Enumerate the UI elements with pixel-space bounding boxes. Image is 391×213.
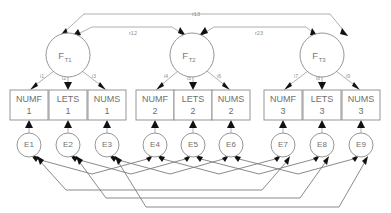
error-corr-line-E1-E7 xyxy=(39,160,288,190)
error-node-E3[interactable]: E3 xyxy=(95,133,119,157)
loading-path-i9[interactable]: i9 xyxy=(336,71,360,90)
arrow-head-E7 xyxy=(279,120,287,128)
loading-path-i6[interactable]: i6 xyxy=(207,71,230,90)
error-label-E4: E4 xyxy=(150,140,160,149)
arrow-head-E2-E8-a xyxy=(76,156,83,165)
indicator-node-NUMS1[interactable]: NUMS 1 xyxy=(88,90,126,120)
error-correlation-E6-E9[interactable] xyxy=(233,155,359,174)
indicator-label-NUMF2: NUMF xyxy=(142,94,168,104)
arrow-head-E1 xyxy=(25,120,33,128)
error-node-E5[interactable]: E5 xyxy=(181,133,205,157)
indicator-node-LETS1[interactable]: LETS 1 xyxy=(49,90,87,120)
arrow-head-E5 xyxy=(189,120,197,128)
arrow-head-E3-E9-b xyxy=(362,156,368,165)
error-node-E8[interactable]: E8 xyxy=(310,133,334,157)
error-label-E1: E1 xyxy=(24,140,34,149)
arrow-head-i4 xyxy=(156,82,164,90)
error-node-E9[interactable]: E9 xyxy=(349,133,373,157)
indicator-label-NUMS2: NUMS xyxy=(218,94,245,104)
indicator-wave-NUMS1: 1 xyxy=(104,106,109,116)
factor-correlation-group: r13 r12 r23 xyxy=(60,11,348,37)
arrow-head-i6 xyxy=(222,82,230,90)
error-node-E1[interactable]: E1 xyxy=(17,133,41,157)
loading-path-i3[interactable]: i3 xyxy=(82,71,106,90)
loading-label-i7: i7 xyxy=(294,73,298,79)
arrow-head-i9 xyxy=(352,82,360,90)
loading-label-i4: i4 xyxy=(164,73,168,79)
correlation-path-r12[interactable]: r12 xyxy=(72,27,186,37)
error-correlation-E5-E8[interactable] xyxy=(195,155,320,174)
error-label-E9: E9 xyxy=(356,140,366,149)
error-correlation-E3-E9[interactable] xyxy=(115,156,368,207)
arrow-head-E1-E7-a xyxy=(37,156,44,165)
error-path-E1 xyxy=(25,120,33,133)
indicator-wave-NUMF2: 2 xyxy=(152,106,157,116)
error-corr-line-E5-E8 xyxy=(197,158,318,174)
factor-node-FT2[interactable]: FT2 xyxy=(170,33,214,77)
indicator-wave-NUMS3: 3 xyxy=(358,106,363,116)
arrow-head-E4 xyxy=(151,120,159,128)
indicator-label-LETS3: LETS xyxy=(311,94,334,104)
loading-path-i4[interactable]: i4 xyxy=(156,71,178,90)
error-node-E7[interactable]: E7 xyxy=(271,133,295,157)
indicator-node-NUMS2[interactable]: NUMS 2 xyxy=(212,90,250,120)
error-node-E6[interactable]: E6 xyxy=(219,133,243,157)
error-correlation-E2-E5[interactable] xyxy=(70,155,191,174)
loading-path-i7[interactable]: i7 xyxy=(284,71,308,90)
indicator-wave-LETS2: 2 xyxy=(190,106,195,116)
arrow-head-i1 xyxy=(30,82,38,90)
indicator-node-NUMF2[interactable]: NUMF 2 xyxy=(136,90,174,120)
sem-canvas: r13 r12 r23 i1 xyxy=(0,0,391,213)
arrow-head-E9 xyxy=(357,120,365,128)
indicator-node-LETS3[interactable]: LETS 3 xyxy=(303,90,341,120)
indicator-wave-NUMF1: 1 xyxy=(26,106,31,116)
factor-circle-FT2 xyxy=(170,33,214,77)
arrow-head-E3 xyxy=(103,120,111,128)
indicator-wave-LETS1: 1 xyxy=(65,106,70,116)
error-label-E8: E8 xyxy=(317,140,327,149)
error-correlation-E2-E8[interactable] xyxy=(76,156,329,198)
error-label-E6: E6 xyxy=(226,140,236,149)
sem-path-diagram: r13 r12 r23 i1 xyxy=(0,0,391,213)
indicator-group: NUMF 1 LETS 1 NUMS 1 NUMF 2 LETS 2 xyxy=(10,90,380,120)
indicator-node-NUMS3[interactable]: NUMS 3 xyxy=(342,90,380,120)
error-label-E2: E2 xyxy=(63,140,73,149)
indicator-label-LETS2: LETS xyxy=(182,94,205,104)
loading-label-i1: i1 xyxy=(40,73,44,79)
arrow-head-E8 xyxy=(318,120,326,128)
error-corr-line-E1-E4 xyxy=(33,158,151,174)
error-path-E3 xyxy=(103,120,111,133)
indicator-node-LETS2[interactable]: LETS 2 xyxy=(174,90,212,120)
error-label-E3: E3 xyxy=(102,140,112,149)
indicator-label-NUMF3: NUMF xyxy=(270,94,296,104)
error-correlation-group xyxy=(31,155,368,207)
factor-node-FT3[interactable]: FT3 xyxy=(300,33,344,77)
arrow-head-E2 xyxy=(64,120,72,128)
arrow-head-E6 xyxy=(227,120,235,128)
error-path-E5 xyxy=(189,120,197,133)
indicator-wave-NUMS2: 2 xyxy=(228,106,233,116)
error-corr-line-E6-E9 xyxy=(235,158,357,174)
arrow-head-i2 xyxy=(64,82,72,90)
correlation-label-r12: r12 xyxy=(129,30,137,36)
indicator-label-NUMF1: NUMF xyxy=(16,94,42,104)
error-path-E9 xyxy=(357,120,365,133)
indicator-wave-NUMF3: 3 xyxy=(280,106,285,116)
error-label-E7: E7 xyxy=(278,140,288,149)
indicator-label-NUMS3: NUMS xyxy=(348,94,375,104)
correlation-path-r23[interactable]: r23 xyxy=(199,27,318,37)
error-path-E6 xyxy=(227,120,235,133)
indicator-node-NUMF3[interactable]: NUMF 3 xyxy=(264,90,302,120)
factor-node-FT1[interactable]: FT1 xyxy=(46,33,90,77)
indicator-label-LETS1: LETS xyxy=(57,94,80,104)
loading-path-i1[interactable]: i1 xyxy=(30,71,54,90)
indicator-label-NUMS1: NUMS xyxy=(94,94,121,104)
loading-label-i6: i6 xyxy=(217,73,221,79)
error-to-indicator-group xyxy=(25,120,365,133)
arrow-head-i5 xyxy=(189,82,197,90)
error-node-E2[interactable]: E2 xyxy=(56,133,80,157)
error-node-E4[interactable]: E4 xyxy=(143,133,167,157)
error-corr-line-E2-E5 xyxy=(72,158,189,174)
indicator-node-NUMF1[interactable]: NUMF 1 xyxy=(10,90,48,120)
indicator-wave-LETS3: 3 xyxy=(319,106,324,116)
